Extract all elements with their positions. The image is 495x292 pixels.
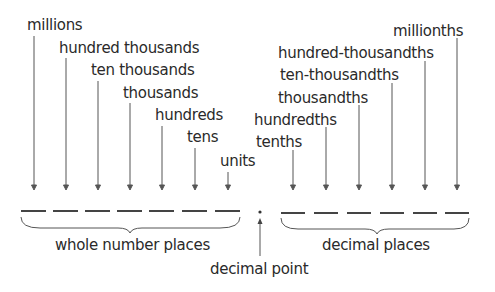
arrow-down-icon [96,185,101,190]
place-label-ten-thousandths: ten-thousandths [280,68,399,83]
arrow-down-icon [64,185,69,190]
arrow-down-icon [193,185,198,190]
decimal-point-label: decimal point [210,262,308,277]
decimal-point-dot [258,210,261,213]
place-label-units: units [220,154,255,169]
arrow-down-icon [455,185,460,190]
arrow-down-icon [128,185,133,190]
arrow-down-icon [160,185,165,190]
place-label-ten-thousands: ten thousands [91,63,194,78]
whole-number-places-label: whole number places [55,238,210,253]
decimal-brace [281,218,469,234]
arrow-down-icon [291,185,296,190]
place-label-thousandths: thousandths [278,91,368,106]
place-label-hundreds: hundreds [155,108,223,123]
place-label-hundred-thousands: hundred thousands [59,41,199,56]
place-label-tenths: tenths [256,135,302,150]
arrow-down-icon [324,185,329,190]
place-label-hundredths: hundredths [254,113,337,128]
arrow-down-icon [423,185,428,190]
place-label-millions: millions [27,18,82,33]
decimal-point-arrow-icon [258,218,263,224]
place-label-hundred-thousandths: hundred-thousandths [278,46,434,61]
place-label-tens: tens [187,130,218,145]
arrow-down-icon [390,185,395,190]
arrow-down-icon [32,185,37,190]
decimal-places-label: decimal places [322,238,430,253]
place-label-millionths: millionths [393,24,463,39]
place-label-thousands: thousands [123,86,198,101]
arrow-down-icon [226,185,231,190]
arrow-down-icon [357,185,362,190]
whole-number-brace [21,217,240,233]
digit-placeholders [21,211,469,213]
